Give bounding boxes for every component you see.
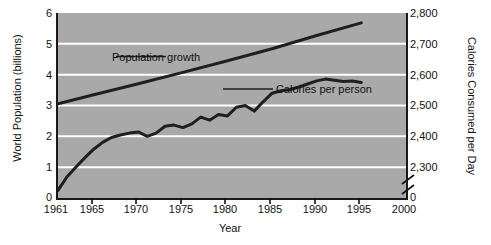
right-axis-title: Calories Consumed per Day — [466, 1, 478, 211]
gridlines — [58, 44, 406, 167]
right-axis-tick-2500: 2,500 — [410, 100, 438, 111]
annotation-population-growth: Population growth — [112, 51, 200, 63]
series-calories-per-person — [58, 79, 361, 190]
left-axis-tick-0: 0 — [6, 192, 52, 203]
chart-container: 6 5 4 3 2 1 0 World Population (billions… — [0, 0, 491, 245]
plot-svg — [58, 13, 406, 198]
right-axis-tick-2600: 2,600 — [410, 70, 438, 81]
axis-break-icon-right — [398, 172, 420, 198]
x-axis-title: Year — [0, 222, 460, 234]
x-axis-tickmarks — [56, 198, 406, 205]
right-axis-tick-2400: 2,400 — [410, 131, 438, 142]
plot-area — [56, 13, 408, 200]
right-axis-tick-2700: 2,700 — [410, 39, 438, 50]
annotation-calories-per-person: Calories per person — [276, 83, 372, 95]
right-axis-tick-2800: 2,800 — [410, 8, 438, 19]
right-axis: 2,800 2,700 2,600 2,500 2,400 2,300 0 — [410, 0, 466, 245]
left-axis-title: World Population (billions) — [11, 8, 23, 188]
